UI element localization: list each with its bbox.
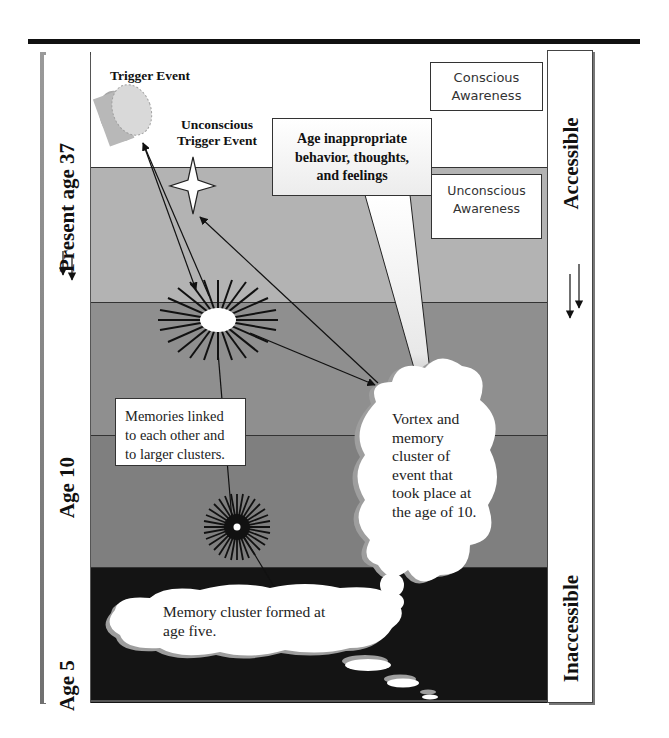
unconscious-awareness-box: Unconscious Awareness <box>431 174 542 239</box>
conscious-awareness-box: Conscious Awareness <box>430 62 543 111</box>
arrow-from-trigger-event <box>143 143 196 290</box>
trigger-event-label: Trigger Event <box>94 68 206 84</box>
arrow-to-unconscious-trigger <box>200 217 378 383</box>
memories-linked-box: Memories linked to each other and to lar… <box>115 398 246 466</box>
right-double-down-arrow-icon <box>570 264 579 318</box>
trigger-event-cylinder-icon <box>92 79 158 147</box>
arrow-to-trigger-event <box>143 143 209 296</box>
unconscious-trigger-star-icon <box>170 157 215 214</box>
age-five-thought-cloud-icon <box>106 584 438 700</box>
arrow-to-vortex <box>250 333 375 385</box>
small-memory-burst-icon <box>204 494 270 560</box>
vortex-cloud-text: Vortex and memory cluster of event that … <box>392 410 502 521</box>
left-double-down-arrow-icon <box>63 251 72 280</box>
age-inappropriate-callout: Age inappropriate behavior, thoughts, an… <box>272 118 432 196</box>
large-memory-burst-icon <box>158 280 278 360</box>
unconscious-trigger-label: Unconscious Trigger Event <box>163 117 271 149</box>
age-five-cloud-text: Memory cluster formed at age five. <box>163 603 383 640</box>
